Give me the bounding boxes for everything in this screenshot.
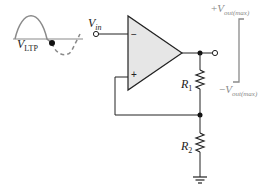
vout-max-positive-label: +Vout(max): [211, 3, 249, 14]
schmitt-trigger-circuit: − +: [0, 0, 263, 194]
r2-sub: 2: [188, 146, 192, 155]
r2-label: R2: [181, 140, 192, 152]
vout-pos-main: V: [217, 2, 224, 14]
vout-neg-sub: out(max): [232, 90, 257, 98]
r1-resistor: [196, 70, 204, 89]
r1-label: R1: [181, 78, 192, 90]
sine-dashed: [52, 34, 80, 55]
opamp-inverting-sign: −: [131, 29, 137, 40]
ground-icon: [193, 177, 207, 183]
output-terminal: [212, 50, 217, 55]
ltp-dot: [49, 40, 55, 46]
vout-pos-sub: out(max): [224, 9, 249, 17]
output-level-bracket: [233, 19, 244, 82]
vin-terminal: [93, 31, 98, 36]
vout-neg-main: V: [225, 83, 232, 95]
vout-max-negative-label: −Vout(max): [219, 84, 257, 95]
vin-label: Vin: [88, 17, 102, 29]
r2-resistor: [196, 133, 204, 152]
r1-sub: 1: [188, 84, 192, 93]
vltp-label: VLTP: [17, 38, 38, 50]
vltp-sub: LTP: [24, 44, 38, 53]
vin-sub: in: [95, 23, 101, 32]
opamp-noninverting-sign: +: [131, 69, 137, 80]
